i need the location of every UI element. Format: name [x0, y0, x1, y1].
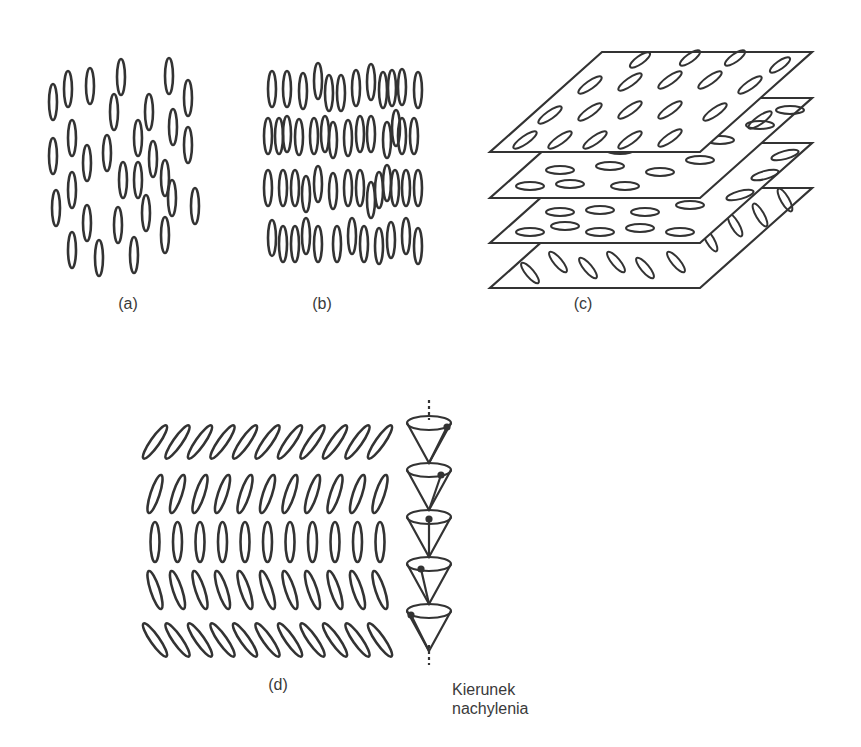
panel-b-label: (b): [302, 295, 342, 313]
panel-d-label: (d): [258, 676, 298, 694]
tilt-label-line1: Kierunek: [452, 680, 529, 699]
panel-d-molecules: [140, 423, 395, 659]
panel-a-molecules: [49, 58, 199, 276]
tilt-direction-label: Kierunek nachylenia: [452, 680, 529, 718]
panel-c-layers: [490, 48, 812, 288]
panel-a-label: (a): [108, 295, 148, 313]
tilt-label-line2: nachylenia: [452, 699, 529, 718]
liquid-crystal-phases-figure: [0, 0, 861, 747]
panel-b-molecules: [264, 63, 422, 264]
panel-c-label: (c): [563, 295, 603, 313]
panel-d-tilt-cones: [407, 400, 451, 665]
